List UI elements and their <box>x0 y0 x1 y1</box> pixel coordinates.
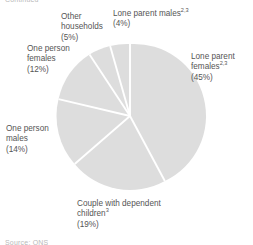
pie-label-other-households-percent: (5%) <box>61 33 103 43</box>
pie-label-couple-line1: Couple with dependent <box>77 199 161 209</box>
pie-label-one-person-females-line2: females <box>27 54 70 64</box>
pie-label-lone-parent-males-line1: Lone parent males2,3 <box>113 9 189 19</box>
pie-label-lone-parent-females-line2: females2,3 <box>191 62 235 72</box>
pie-chart-figure: Continued Lone parent males2,3 (4%) Othe… <box>0 0 253 245</box>
page-footer-fragment: Source: ONS <box>5 239 48 245</box>
pie-label-lone-parent-females-percent: (45%) <box>191 73 235 83</box>
pie-label-lone-parent-females: Lone parent females2,3 (45%) <box>191 52 235 83</box>
pie-label-one-person-females: One person females (12%) <box>27 44 70 75</box>
pie-label-couple-percent: (19%) <box>77 220 161 230</box>
pie-label-lone-parent-males: Lone parent males2,3 (4%) <box>113 9 189 30</box>
pie-label-one-person-males: One person males (14%) <box>6 124 49 155</box>
pie-label-couple-with-dependent-children: Couple with dependent children3 (19%) <box>77 199 161 230</box>
pie-label-lone-parent-males-superscript: 2,3 <box>181 7 189 13</box>
pie-label-other-households-line2: households <box>61 22 103 32</box>
pie-label-lone-parent-males-percent: (4%) <box>113 19 189 29</box>
pie-label-couple-superscript: 3 <box>106 208 109 214</box>
pie-label-other-households: Other households (5%) <box>61 12 103 43</box>
pie-label-one-person-males-line2: males <box>6 134 49 144</box>
pie-label-one-person-males-percent: (14%) <box>6 145 49 155</box>
pie-label-one-person-females-line1: One person <box>27 44 70 54</box>
pie-label-other-households-line1: Other <box>61 12 103 22</box>
pie-label-lone-parent-females-superscript: 2,3 <box>220 61 228 67</box>
pie-label-one-person-males-line1: One person <box>6 124 49 134</box>
pie-label-one-person-females-percent: (12%) <box>27 65 70 75</box>
pie-label-couple-line2: children3 <box>77 209 161 219</box>
pie-label-lone-parent-females-line1: Lone parent <box>191 52 235 62</box>
